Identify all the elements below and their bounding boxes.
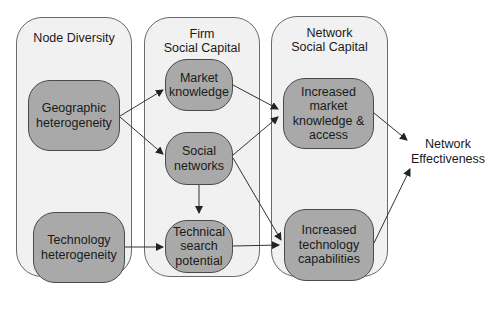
outcome-network-effectiveness: Network Effectiveness (404, 137, 492, 167)
node-social-networks: Social networks (165, 132, 233, 185)
node-geographic-heterogeneity: Geographic heterogeneity (28, 80, 120, 151)
node-market-knowledge: Market knowledge (165, 59, 233, 111)
node-technical-search-potential: Technical search potential (165, 220, 233, 273)
column-title-node-diversity: Node Diversity (17, 31, 131, 45)
column-title-network-social-capital: Network Social Capital (272, 26, 387, 54)
node-increased-technology-capabilities: Increased technology capabilities (284, 209, 374, 281)
node-technology-heterogeneity: Technology heterogeneity (33, 212, 125, 283)
node-increased-market-knowledge: Increased market knowledge & access (283, 78, 374, 149)
column-title-firm-social-capital: Firm Social Capital (145, 27, 259, 55)
